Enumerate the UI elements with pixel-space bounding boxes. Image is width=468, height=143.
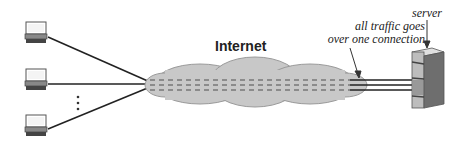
server-icon bbox=[412, 48, 444, 108]
client-computer-icon bbox=[25, 69, 47, 90]
annotation-line-2: over one connection bbox=[290, 33, 425, 46]
client-computer-icon bbox=[25, 115, 47, 136]
client-links bbox=[48, 37, 150, 129]
traffic-annotation: all traffic goes over one connection bbox=[290, 20, 425, 46]
server-label: server bbox=[412, 6, 442, 21]
internet-label: Internet bbox=[215, 38, 266, 54]
client-computer-icon bbox=[25, 22, 47, 43]
more-clients-ellipsis bbox=[77, 96, 80, 111]
